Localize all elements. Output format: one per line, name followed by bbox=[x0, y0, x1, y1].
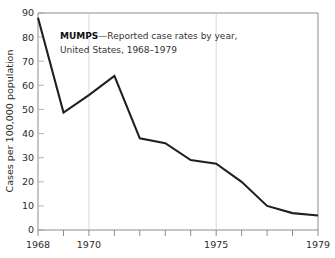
y-axis-ticks bbox=[38, 13, 44, 230]
y-tick-label: 10 bbox=[22, 200, 34, 211]
chart-container: 0 10 20 30 40 50 60 70 80 90 Cases per 1… bbox=[0, 0, 335, 258]
y-axis-tick-labels: 0 10 20 30 40 50 60 70 80 90 bbox=[22, 7, 34, 235]
chart-title-disease: MUMPS bbox=[60, 31, 98, 41]
mumps-line-chart: 0 10 20 30 40 50 60 70 80 90 Cases per 1… bbox=[0, 0, 335, 258]
y-tick-label: 0 bbox=[28, 224, 34, 235]
y-tick-label: 80 bbox=[22, 32, 34, 43]
y-tick-label: 70 bbox=[22, 56, 34, 67]
y-tick-label: 50 bbox=[22, 104, 34, 115]
chart-title-line-1: MUMPS—Reported case rates by year, bbox=[60, 31, 237, 41]
chart-title-line-2: United States, 1968–1979 bbox=[60, 45, 177, 55]
x-tick-label-1970: 1970 bbox=[77, 239, 101, 250]
y-tick-label: 90 bbox=[22, 7, 34, 18]
chart-title: MUMPS—Reported case rates by year, Unite… bbox=[60, 31, 237, 55]
chart-title-line-1-rest: —Reported case rates by year, bbox=[98, 31, 237, 41]
y-tick-label: 30 bbox=[22, 152, 34, 163]
x-axis-tick-labels: 1968 1970 1975 1979 bbox=[26, 239, 330, 250]
y-tick-label: 20 bbox=[22, 176, 34, 187]
x-tick-label-1979: 1979 bbox=[306, 239, 330, 250]
y-axis-title: Cases per 100,000 population bbox=[4, 50, 15, 193]
y-tick-label: 60 bbox=[22, 80, 34, 91]
x-axis-ticks bbox=[38, 230, 318, 236]
x-tick-label-1968: 1968 bbox=[26, 239, 50, 250]
y-tick-label: 40 bbox=[22, 128, 34, 139]
x-tick-label-1975: 1975 bbox=[204, 239, 228, 250]
